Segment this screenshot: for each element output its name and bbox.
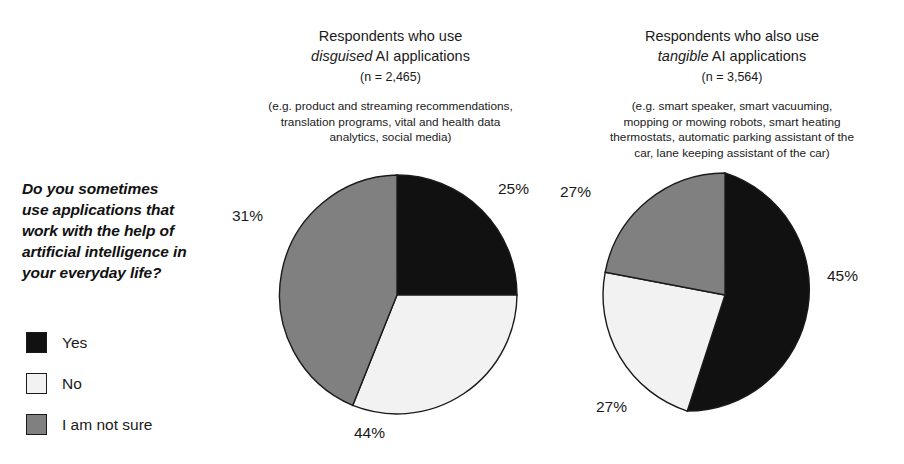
- panel-subtitle-line: (e.g. product and streaming recommendati…: [228, 99, 553, 115]
- panel-sample-size: (n = 3,564): [560, 67, 904, 87]
- pie-label-not-sure: 27%: [560, 183, 591, 201]
- panel-title-rest: AI applications: [709, 48, 807, 64]
- panel-subtitle-line: translation programs, vital and health d…: [228, 115, 553, 131]
- panel-title-line1: Respondents who also use: [560, 26, 904, 46]
- legend-label: No: [62, 375, 82, 393]
- pie-label-not-sure: 31%: [232, 207, 263, 225]
- legend-item-not-sure: I am not sure: [26, 404, 226, 445]
- panel-title-rest: AI applications: [372, 48, 470, 64]
- legend-label: Yes: [62, 334, 87, 352]
- question-line: use applications that: [22, 199, 217, 220]
- panel-sample-size: (n = 2,465): [228, 67, 553, 87]
- panel-disguised: Respondents who use disguised AI applica…: [228, 0, 553, 464]
- chart-legend: Yes No I am not sure: [26, 322, 226, 445]
- panel-subtitle: (e.g. smart speaker, smart vacuuming, mo…: [560, 99, 904, 161]
- pie-label-yes: 45%: [827, 267, 858, 285]
- panel-title: Respondents who use disguised AI applica…: [228, 26, 553, 87]
- panel-title-emphasis: disguised: [311, 48, 372, 64]
- legend-item-yes: Yes: [26, 322, 226, 363]
- legend-label: I am not sure: [62, 416, 152, 434]
- pie-svg: [274, 172, 520, 418]
- panel-subtitle: (e.g. product and streaming recommendati…: [228, 99, 553, 146]
- panel-subtitle-line: thermostats, automatic parking assistant…: [560, 130, 904, 146]
- panel-subtitle-line: analytics, social media): [228, 130, 553, 146]
- panel-title-line2: disguised AI applications: [228, 46, 553, 66]
- question-line: work with the help of: [22, 220, 217, 241]
- question-line: artificial intelligence in: [22, 241, 217, 262]
- question-line: Do you sometimes: [22, 178, 217, 199]
- white-swatch-icon: [26, 373, 47, 394]
- gray-swatch-icon: [26, 414, 47, 435]
- pie-label-yes: 25%: [498, 180, 529, 198]
- survey-question: Do you sometimes use applications that w…: [22, 178, 217, 283]
- panel-title: Respondents who also use tangible AI app…: [560, 26, 904, 87]
- panel-title-line1: Respondents who use: [228, 26, 553, 46]
- chart-canvas: Do you sometimes use applications that w…: [0, 0, 904, 464]
- black-swatch-icon: [26, 332, 47, 353]
- pie-chart-tangible: [600, 170, 850, 420]
- panel-title-emphasis: tangible: [658, 48, 709, 64]
- question-line: your everyday life?: [22, 262, 217, 283]
- legend-item-no: No: [26, 363, 226, 404]
- panel-subtitle-line: mopping or mowing robots, smart heating: [560, 115, 904, 131]
- panel-title-line2: tangible AI applications: [560, 46, 904, 66]
- pie-svg: [600, 170, 850, 420]
- pie-label-no: 27%: [596, 398, 627, 416]
- panel-tangible: Respondents who also use tangible AI app…: [560, 0, 904, 464]
- pie-label-no: 44%: [354, 424, 385, 442]
- pie-chart-disguised: [274, 172, 520, 418]
- panel-subtitle-line: (e.g. smart speaker, smart vacuuming,: [560, 99, 904, 115]
- panel-subtitle-line: car, lane keeping assistant of the car): [560, 146, 904, 162]
